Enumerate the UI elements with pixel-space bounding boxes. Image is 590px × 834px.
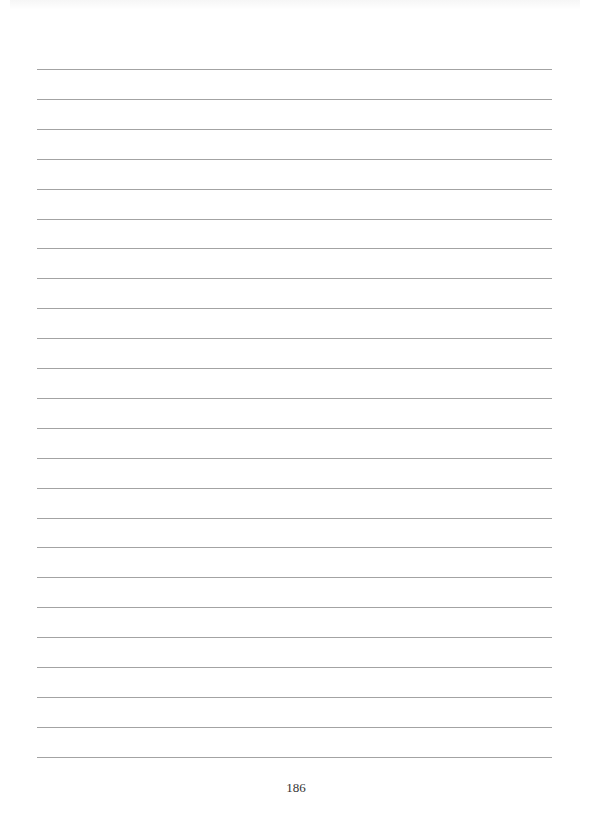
notes-page: 186 [0, 0, 590, 834]
ruled-line [37, 338, 552, 339]
ruled-line [37, 458, 552, 459]
ruled-line [37, 518, 552, 519]
ruled-line [37, 278, 552, 279]
ruled-line [37, 69, 552, 70]
ruled-line [37, 248, 552, 249]
ruled-line [37, 129, 552, 130]
page-number: 186 [0, 780, 590, 796]
ruled-line [37, 637, 552, 638]
ruled-line [37, 308, 552, 309]
ruled-line [37, 577, 552, 578]
ruled-line [37, 159, 552, 160]
ruled-line [37, 547, 552, 548]
ruled-line [37, 398, 552, 399]
bleed-through-text [10, 0, 580, 10]
ruled-line [37, 727, 552, 728]
ruled-line [37, 99, 552, 100]
ruled-line [37, 607, 552, 608]
ruled-line [37, 488, 552, 489]
ruled-line [37, 368, 552, 369]
ruled-line [37, 428, 552, 429]
ruled-line [37, 757, 552, 758]
ruled-line [37, 697, 552, 698]
ruled-line [37, 189, 552, 190]
ruled-line [37, 219, 552, 220]
ruled-line [37, 667, 552, 668]
